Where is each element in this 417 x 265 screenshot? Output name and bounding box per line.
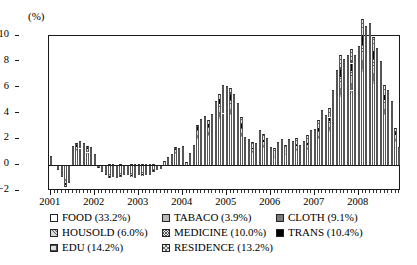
bar-segment-trans bbox=[90, 149, 93, 150]
bar-segment-tabaco bbox=[387, 117, 390, 119]
bar-segment-tabaco bbox=[229, 114, 232, 116]
bar-segment-medicine bbox=[83, 147, 86, 149]
bar-2003-03 bbox=[145, 36, 148, 191]
bar-segment-medicine bbox=[292, 149, 295, 150]
bar-outline bbox=[295, 138, 298, 139]
x-tick-minor bbox=[296, 190, 297, 193]
bar-segment-housold bbox=[94, 157, 97, 158]
bar-segment-edu bbox=[332, 100, 335, 102]
bar-2004-08 bbox=[207, 36, 210, 191]
bar-segment-edu bbox=[262, 139, 265, 140]
bar-segment-edu bbox=[123, 174, 126, 175]
legend-row-2: HOUSOLD (6.0%) MEDICINE (10.0%) TRANS (1… bbox=[44, 226, 384, 241]
bar-segment-edu bbox=[314, 134, 317, 135]
bar-segment-edu bbox=[160, 168, 163, 169]
bar-outline bbox=[86, 146, 89, 147]
x-tick-minor bbox=[61, 190, 62, 193]
bar-segment-cloth bbox=[343, 92, 346, 98]
bar-segment-medicine bbox=[90, 151, 93, 152]
y-tick-label: 10 bbox=[0, 28, 9, 40]
bar-segment-housold bbox=[387, 109, 390, 112]
bar-segment-food bbox=[215, 123, 218, 166]
legend-item-housold: HOUSOLD (6.0%) bbox=[50, 226, 148, 239]
bar-segment-food bbox=[387, 119, 390, 166]
bar-segment-cloth bbox=[358, 80, 361, 87]
x-tick-minor bbox=[149, 190, 150, 193]
x-tick-major bbox=[94, 190, 95, 195]
bar-segment-edu bbox=[336, 81, 339, 84]
bar-segment-food bbox=[292, 153, 295, 165]
bar-segment-medicine bbox=[178, 151, 181, 152]
x-tick-minor bbox=[178, 190, 179, 193]
x-tick-major bbox=[270, 190, 271, 195]
bar-outline bbox=[211, 114, 214, 115]
bar-segment-trans bbox=[306, 143, 309, 145]
bar-segment-food bbox=[182, 153, 185, 165]
bar-outline bbox=[328, 108, 331, 109]
legend-label-housold: HOUSOLD (6.0%) bbox=[62, 226, 148, 239]
bar-2003-02 bbox=[141, 36, 144, 191]
bar-segment-food bbox=[332, 121, 335, 166]
x-tick-minor bbox=[160, 190, 161, 193]
bar-segment-cloth bbox=[391, 120, 394, 124]
legend-swatch-medicine-icon bbox=[162, 229, 170, 237]
bar-outline bbox=[174, 147, 177, 148]
bar-outline bbox=[262, 134, 265, 135]
bar-segment-housold bbox=[314, 140, 317, 141]
x-tick-minor bbox=[57, 190, 58, 193]
bar-2004-05 bbox=[196, 36, 199, 191]
x-tick-minor bbox=[127, 190, 128, 193]
bar-segment-edu bbox=[350, 60, 353, 63]
x-tick-minor bbox=[145, 190, 146, 193]
bar-segment-housold bbox=[310, 143, 313, 144]
x-tick-minor bbox=[219, 190, 220, 193]
bar-2006-04 bbox=[281, 36, 284, 191]
bar-segment-food bbox=[130, 165, 133, 173]
bar-segment-trans bbox=[86, 148, 89, 149]
legend-item-tabaco: TABACO (3.9%) bbox=[162, 211, 251, 224]
bar-segment-tabaco bbox=[383, 114, 386, 116]
bar-segment-medicine bbox=[358, 68, 361, 76]
bar-segment-food bbox=[94, 158, 97, 165]
x-tick-minor bbox=[303, 190, 304, 193]
bar-outline bbox=[288, 139, 291, 140]
bar-segment-food bbox=[207, 136, 210, 165]
x-tick-minor bbox=[318, 190, 319, 193]
bar-segment-housold bbox=[248, 148, 251, 149]
bar-segment-edu bbox=[196, 126, 199, 127]
bar-outline bbox=[229, 88, 232, 89]
x-tick-minor bbox=[72, 190, 73, 193]
bar-segment-housold bbox=[72, 150, 75, 151]
y-tick-mark bbox=[15, 190, 19, 191]
bar-segment-cloth bbox=[317, 136, 320, 139]
bar-segment-edu bbox=[211, 115, 214, 117]
bar-segment-housold bbox=[354, 84, 357, 88]
bar-segment-housold bbox=[233, 111, 236, 114]
bar-segment-medicine bbox=[189, 155, 192, 156]
bar-outline bbox=[83, 143, 86, 144]
bar-segment-edu bbox=[303, 147, 306, 148]
bar-segment-medicine bbox=[270, 154, 273, 155]
bar-segment-housold bbox=[171, 156, 174, 157]
bar-segment-tabaco bbox=[299, 154, 302, 155]
bar-segment-tabaco bbox=[255, 153, 258, 154]
bar-outline bbox=[163, 161, 166, 162]
x-tick-minor bbox=[325, 190, 326, 193]
bar-segment-edu bbox=[75, 144, 78, 145]
bar-segment-edu bbox=[288, 145, 291, 146]
bar-outline bbox=[64, 186, 67, 187]
bar-segment-edu bbox=[328, 116, 331, 118]
bar-segment-tabaco bbox=[306, 149, 309, 150]
bar-segment-tabaco bbox=[303, 152, 306, 153]
bar-segment-cloth bbox=[328, 127, 331, 130]
bar-outline bbox=[303, 141, 306, 142]
bar-segment-trans bbox=[244, 142, 247, 144]
x-tick-major bbox=[138, 190, 139, 195]
bar-segment-food bbox=[328, 132, 331, 166]
bar-segment-medicine bbox=[218, 104, 221, 109]
bar-segment-residence bbox=[310, 130, 313, 137]
bar-outline bbox=[284, 145, 287, 146]
x-tick-minor bbox=[362, 190, 363, 193]
bar-segment-trans bbox=[310, 138, 313, 140]
bar-segment-edu bbox=[347, 67, 350, 70]
